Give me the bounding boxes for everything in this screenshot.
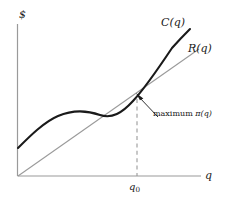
figure-canvas xyxy=(0,0,230,209)
annotation-pi-symbol: π(q) xyxy=(195,109,212,118)
q0-subscript: 0 xyxy=(135,185,140,194)
y-axis-label: $ xyxy=(19,9,26,20)
cost-curve-label: C(q) xyxy=(161,17,185,28)
x-axis-tick-label-q0: q0 xyxy=(129,182,140,193)
maximum-profit-annotation: maximum π(q) xyxy=(153,110,212,118)
revenue-line-label: R(q) xyxy=(188,43,212,54)
cost-curve xyxy=(18,29,190,148)
x-axis-label: q xyxy=(205,170,212,181)
cost-revenue-profit-figure: $ q C(q) R(q) q0 maximum π(q) xyxy=(0,0,230,209)
annotation-prefix: maximum xyxy=(153,109,195,118)
